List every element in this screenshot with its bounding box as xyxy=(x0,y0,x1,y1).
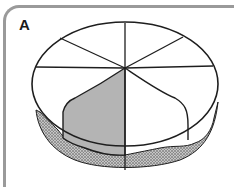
divided-disk-diagram xyxy=(0,0,234,187)
right-segment-outline xyxy=(125,68,188,140)
